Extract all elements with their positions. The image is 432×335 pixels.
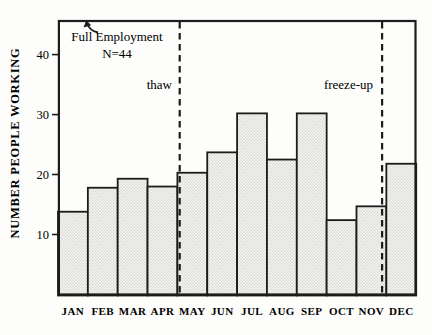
bar-aug <box>267 160 297 296</box>
y-tick-label-40: 40 <box>23 49 49 61</box>
y-tick-label-10: 10 <box>23 229 49 241</box>
month-label-oct: OCT <box>329 305 354 317</box>
month-label-nov: NOV <box>359 305 385 317</box>
bars-group <box>58 113 416 295</box>
month-label-jul: JUL <box>241 305 263 317</box>
y-tick-label-30: 30 <box>23 109 49 121</box>
sample-size-label: N=44 <box>64 46 170 63</box>
bar-jul <box>237 113 267 295</box>
bar-sep <box>297 113 327 295</box>
bar-apr <box>148 187 178 296</box>
y-tick-label-20: 20 <box>23 169 49 181</box>
bar-may <box>177 173 207 296</box>
thaw-label: thaw <box>147 77 172 93</box>
month-label-jan: JAN <box>62 305 85 317</box>
month-label-sep: SEP <box>301 305 322 317</box>
month-label-aug: AUG <box>269 305 295 317</box>
month-label-mar: MAR <box>119 305 146 317</box>
full-employment-label: Full Employment <box>64 29 170 46</box>
bar-oct <box>327 220 357 295</box>
month-label-apr: APR <box>151 305 175 317</box>
month-label-dec: DEC <box>389 305 413 317</box>
bar-feb <box>88 188 118 296</box>
month-label-jun: JUN <box>211 305 234 317</box>
month-label-feb: FEB <box>92 305 115 317</box>
freeze-up-label: freeze-up <box>324 77 373 93</box>
month-label-may: MAY <box>179 305 205 317</box>
y-axis-title: NUMBER PEOPLE WORKING <box>8 48 23 239</box>
bar-jan <box>58 212 88 296</box>
bar-jun <box>207 152 237 295</box>
employment-bar-chart-figure: NUMBER PEOPLE WORKING 10203040 JANFEBMAR… <box>0 0 432 335</box>
full-employment-annotation: Full Employment N=44 <box>64 29 170 63</box>
bar-mar <box>118 179 148 296</box>
bar-dec <box>386 164 416 296</box>
bar-nov <box>357 206 387 295</box>
